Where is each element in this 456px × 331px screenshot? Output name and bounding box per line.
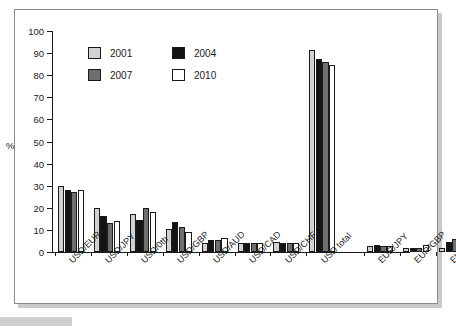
x-axis-tick [270, 252, 271, 256]
screenshot-root: % 0102030405060708090100 USD/EURUSD/JPYU… [0, 0, 456, 331]
x-axis-tick [127, 252, 128, 256]
y-axis-tick [47, 119, 52, 120]
bar [403, 248, 409, 252]
x-axis-tick [55, 252, 56, 256]
bar [316, 59, 322, 252]
bottom-grey-tab [0, 317, 72, 326]
bar [172, 222, 178, 252]
bar-group [58, 31, 84, 252]
bar-group [273, 31, 299, 252]
y-axis-tick [47, 75, 52, 76]
y-axis-tick [47, 164, 52, 165]
legend-label-2001: 2001 [110, 48, 132, 59]
bar [208, 240, 214, 252]
legend-swatch-2010 [172, 69, 185, 81]
y-axis-tick [47, 252, 52, 253]
y-axis-tick [47, 230, 52, 231]
y-axis-tick-label: 40 [33, 158, 44, 169]
y-axis-tick-label: 20 [33, 202, 44, 213]
bar [71, 192, 77, 252]
x-axis-tick [436, 252, 437, 256]
y-axis-line [52, 31, 53, 253]
y-axis-unit-label: % [6, 140, 14, 151]
y-axis-tick-label: 80 [33, 70, 44, 81]
y-axis-tick-label: 50 [33, 136, 44, 147]
bar [329, 65, 335, 252]
bar [410, 248, 416, 252]
x-axis-tick [199, 252, 200, 256]
bar-group [238, 31, 264, 252]
bar-group [367, 31, 393, 252]
chart-legend: 2001200420072010 [88, 47, 238, 89]
y-axis-tick-label: 100 [28, 26, 44, 37]
legend-item-2007: 2007 [88, 69, 132, 81]
bar [65, 190, 71, 252]
y-axis-tick [47, 186, 52, 187]
bar [446, 242, 452, 252]
x-axis-tick [306, 252, 307, 256]
y-axis-tick-label: 10 [33, 224, 44, 235]
bar-group [439, 31, 456, 252]
bar-group [403, 31, 429, 252]
y-axis-tick [47, 208, 52, 209]
legend-item-2004: 2004 [172, 47, 216, 59]
bar [143, 208, 149, 252]
bar [439, 248, 445, 252]
bar [244, 243, 250, 252]
y-axis-tick-label: 0 [39, 247, 44, 258]
x-axis-tick [91, 252, 92, 256]
bar-group [309, 31, 335, 252]
legend-item-2010: 2010 [172, 69, 216, 81]
legend-label-2004: 2004 [194, 48, 216, 59]
y-axis-tick-label: 90 [33, 48, 44, 59]
legend-label-2010: 2010 [194, 70, 216, 81]
legend-item-2001: 2001 [88, 47, 132, 59]
bar [374, 245, 380, 252]
y-axis-tick-label: 30 [33, 180, 44, 191]
y-axis-tick [47, 31, 52, 32]
y-axis-tick-label: 70 [33, 92, 44, 103]
bar [136, 220, 142, 252]
x-axis-tick [400, 252, 401, 256]
x-axis-tick [163, 252, 164, 256]
y-axis-tick-label: 60 [33, 114, 44, 125]
legend-swatch-2004 [172, 47, 185, 59]
bar [322, 62, 328, 252]
y-axis-tick [47, 53, 52, 54]
legend-label-2007: 2007 [110, 70, 132, 81]
y-axis-tick [47, 97, 52, 98]
legend-swatch-2001 [88, 47, 101, 59]
legend-swatch-2007 [88, 69, 101, 81]
y-axis-tick [47, 142, 52, 143]
bar [309, 50, 315, 252]
bar [58, 186, 64, 252]
bar [280, 243, 286, 253]
x-axis-tick [364, 252, 365, 256]
bar [367, 246, 373, 252]
x-axis-tick [235, 252, 236, 256]
